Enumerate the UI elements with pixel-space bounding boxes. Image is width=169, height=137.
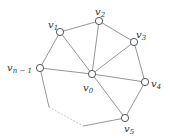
edge-v2-v3 [99, 21, 134, 42]
edge-v0-vn-1 [40, 68, 92, 74]
edge-v1-v2 [60, 21, 99, 32]
boundary-edge-solid [83, 118, 125, 126]
edge-v0-v3 [92, 42, 134, 74]
edge-v0-v1 [60, 32, 92, 74]
edge-v0-v2 [92, 21, 99, 74]
node-label-v0: v0 [83, 82, 94, 95]
edge-v0-v4 [92, 74, 145, 82]
node-label-vn-1: vn − 1 [7, 62, 32, 75]
edges-group [40, 21, 145, 118]
node-label-v5: v5 [124, 123, 135, 136]
node-v5 [121, 114, 128, 121]
node-label-v4: v4 [151, 78, 161, 91]
edge-vn-1-v1 [40, 32, 60, 68]
wheel-graph-diagram: v0v1v2v3v4v5vn − 1 [0, 0, 169, 137]
node-label-v2: v2 [95, 6, 106, 19]
node-v4 [141, 78, 148, 85]
node-label-v1: v1 [48, 19, 58, 32]
edge-v4-v5 [125, 82, 145, 118]
node-vn-1 [36, 64, 43, 71]
boundary-edge-solid [40, 68, 49, 107]
edge-v3-v4 [134, 42, 145, 82]
node-v0 [88, 70, 95, 77]
node-label-v3: v3 [136, 29, 147, 42]
boundary-edge-dotted [49, 107, 83, 126]
edge-v0-v5 [92, 74, 125, 118]
